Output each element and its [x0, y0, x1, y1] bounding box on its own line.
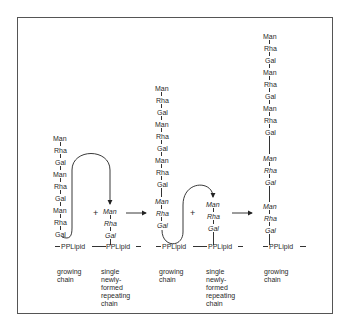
transfer-curve-arrow-1: [62, 154, 110, 238]
arrows-layer: [0, 0, 354, 331]
transfer-curve-arrow-2: [162, 185, 213, 244]
